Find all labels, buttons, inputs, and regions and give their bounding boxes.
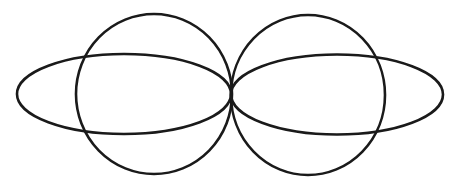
left-circle bbox=[76, 14, 232, 174]
left-ellipse bbox=[17, 54, 231, 134]
right-ellipse bbox=[231, 55, 443, 135]
right-circle bbox=[231, 15, 385, 175]
diagram-canvas bbox=[0, 0, 460, 186]
circles-ellipses-figure bbox=[0, 0, 460, 186]
